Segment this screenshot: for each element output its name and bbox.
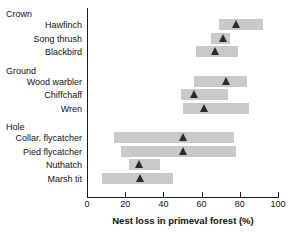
value-marker-triangle bbox=[219, 34, 227, 42]
range-bar bbox=[194, 76, 247, 87]
category-label: Wood warbler bbox=[27, 77, 82, 87]
range-row bbox=[87, 76, 291, 87]
group-label-ground: Ground bbox=[6, 66, 36, 76]
range-bar bbox=[114, 132, 234, 143]
x-axis-tick-label: 0 bbox=[84, 199, 89, 210]
nest-loss-range-chart: CrownHawfinchSong thrushBlackbirdGroundW… bbox=[0, 0, 291, 239]
category-label: Hawfinch bbox=[45, 20, 82, 30]
range-row bbox=[87, 89, 291, 100]
value-marker-triangle bbox=[222, 77, 230, 85]
range-row bbox=[87, 173, 291, 184]
x-axis-tick bbox=[278, 192, 279, 197]
range-row bbox=[87, 46, 291, 57]
x-axis-tick-label: 20 bbox=[120, 199, 130, 210]
category-label: Marsh tit bbox=[47, 174, 82, 184]
range-row bbox=[87, 19, 291, 30]
x-axis-title: Nest loss in primeval forest (%) bbox=[87, 215, 279, 226]
group-label-hole: Hole bbox=[6, 122, 25, 132]
range-row bbox=[87, 33, 291, 44]
category-label: Nuthatch bbox=[46, 160, 82, 170]
range-row bbox=[87, 103, 291, 114]
category-label: Song thrush bbox=[33, 34, 82, 44]
value-marker-triangle bbox=[179, 147, 187, 155]
x-axis-tick bbox=[87, 192, 88, 197]
value-marker-triangle bbox=[135, 160, 143, 168]
category-label: Collar. flycatcher bbox=[15, 133, 82, 143]
x-axis-tick-label: 100 bbox=[270, 199, 285, 210]
x-axis-tick bbox=[125, 192, 126, 197]
range-row bbox=[87, 132, 291, 143]
value-marker-triangle bbox=[190, 90, 198, 98]
range-bar bbox=[183, 103, 250, 114]
group-label-crown: Crown bbox=[6, 9, 32, 19]
value-marker-triangle bbox=[200, 104, 208, 112]
plot-area: 020406080100 bbox=[87, 0, 291, 200]
category-labels-column: CrownHawfinchSong thrushBlackbirdGroundW… bbox=[0, 0, 87, 200]
x-axis-tick-label: 80 bbox=[235, 199, 245, 210]
x-axis-tick bbox=[202, 192, 203, 197]
x-axis-tick bbox=[240, 192, 241, 197]
value-marker-triangle bbox=[232, 20, 240, 28]
category-label: Pied flycatcher bbox=[23, 147, 82, 157]
category-label: Blackbird bbox=[45, 47, 82, 57]
x-axis-tick-label: 60 bbox=[197, 199, 207, 210]
x-axis-line bbox=[87, 197, 279, 198]
x-axis-tick-label: 40 bbox=[158, 199, 168, 210]
category-label: Chiffchaff bbox=[44, 90, 82, 100]
range-row bbox=[87, 146, 291, 157]
range-row bbox=[87, 159, 291, 170]
range-bar bbox=[219, 19, 263, 30]
value-marker-triangle bbox=[211, 47, 219, 55]
x-axis-tick bbox=[163, 192, 164, 197]
category-label: Wren bbox=[61, 104, 82, 114]
value-marker-triangle bbox=[136, 174, 144, 182]
range-bar bbox=[181, 89, 229, 100]
value-marker-triangle bbox=[179, 133, 187, 141]
